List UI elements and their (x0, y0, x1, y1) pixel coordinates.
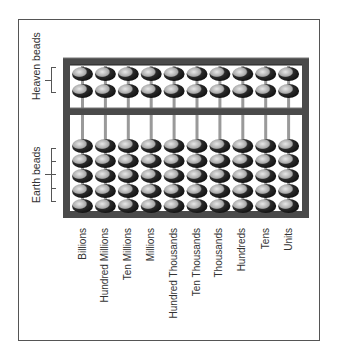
bead (164, 154, 185, 168)
bead (232, 169, 253, 183)
bead (118, 154, 139, 168)
column-label: Thousands (214, 228, 225, 277)
bead (164, 184, 185, 198)
bead (255, 67, 276, 81)
column-label: Hundred Thousands (168, 228, 179, 318)
column-label: Ten Millions (122, 228, 133, 280)
bead (72, 154, 93, 168)
bead (209, 169, 230, 183)
bead (95, 184, 116, 198)
bead (187, 84, 208, 98)
bead (95, 169, 116, 183)
bead (72, 169, 93, 183)
column-label: Billions (77, 228, 88, 260)
bead (118, 199, 139, 213)
bead (255, 154, 276, 168)
bead (187, 139, 208, 153)
bead (72, 67, 93, 81)
bead (232, 184, 253, 198)
bead (164, 199, 185, 213)
column-label: Hundreds (237, 228, 248, 271)
column-label: Millions (145, 228, 156, 261)
bead (232, 67, 253, 81)
bead (209, 154, 230, 168)
bead (278, 154, 299, 168)
bead (255, 199, 276, 213)
bead (95, 199, 116, 213)
bead (141, 199, 162, 213)
bead (209, 199, 230, 213)
bead (141, 84, 162, 98)
bead (118, 169, 139, 183)
bead (95, 84, 116, 98)
bead (141, 184, 162, 198)
bead (209, 139, 230, 153)
bead (209, 67, 230, 81)
bead (141, 139, 162, 153)
column-label: Hundred Millions (99, 228, 110, 302)
bead (72, 184, 93, 198)
bead (118, 84, 139, 98)
bead (118, 67, 139, 81)
bead (255, 139, 276, 153)
bead (95, 67, 116, 81)
bead (232, 139, 253, 153)
column-label: Tens (260, 228, 271, 249)
bead (141, 67, 162, 81)
bead (278, 184, 299, 198)
bead (232, 154, 253, 168)
reckoning-beam (70, 108, 302, 115)
bead (209, 184, 230, 198)
bead (278, 84, 299, 98)
bead (118, 184, 139, 198)
bead (118, 139, 139, 153)
bead (164, 84, 185, 98)
bead (187, 184, 208, 198)
bead (141, 154, 162, 168)
bead (187, 67, 208, 81)
bead (255, 169, 276, 183)
bead (95, 139, 116, 153)
bead (209, 84, 230, 98)
column-label: Units (283, 228, 294, 251)
bead (278, 169, 299, 183)
bead (187, 154, 208, 168)
bead (232, 199, 253, 213)
bead (72, 199, 93, 213)
bead (255, 84, 276, 98)
bead (72, 84, 93, 98)
bead (141, 169, 162, 183)
bead (164, 139, 185, 153)
bead (72, 139, 93, 153)
bead (95, 154, 116, 168)
bead (278, 67, 299, 81)
bead (278, 199, 299, 213)
bead (278, 139, 299, 153)
bead (232, 84, 253, 98)
bead (255, 184, 276, 198)
bead (164, 67, 185, 81)
bead (164, 169, 185, 183)
bead (187, 199, 208, 213)
column-label: Ten Thousands (191, 228, 202, 296)
bead (187, 169, 208, 183)
